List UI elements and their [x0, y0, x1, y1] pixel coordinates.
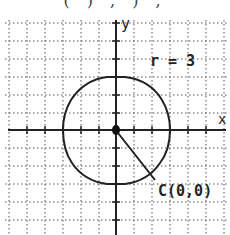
- x-axis-label: x: [218, 111, 226, 127]
- radius-line: [118, 133, 155, 180]
- radius-label: r = 3: [150, 52, 195, 70]
- y-axis-label: y: [121, 15, 130, 33]
- center-label: C(0,0): [158, 182, 212, 200]
- center-point: [112, 125, 120, 135]
- coordinate-plane: y x r = 3 C(0,0): [0, 0, 230, 235]
